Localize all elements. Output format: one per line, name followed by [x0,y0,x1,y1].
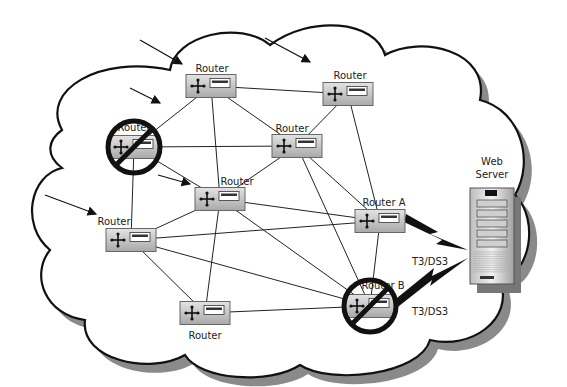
router-ra[interactable]: Router A [355,197,406,233]
server-slot [480,276,494,279]
drive-bay [477,210,507,217]
router-label: Router [195,63,229,74]
router-label: Router [220,176,254,187]
drive-bay [477,240,507,247]
drive-bay [477,200,507,207]
router-label: Router A [362,197,405,208]
cloud [32,25,529,377]
router-label: Router [97,216,131,227]
server-label-line2: Server [476,169,510,180]
incoming-arrow [140,40,182,64]
router-label: Router [333,70,367,81]
router-label: Router [275,123,309,134]
wan-link-label: T3/DS3 [411,306,448,317]
drive-bay [477,220,507,227]
server-display [485,190,497,196]
network-diagram: T3/DS3T3/DS3 RouterRouterRouterRouterRou… [0,0,567,387]
wan-link-label: T3/DS3 [411,256,448,267]
drive-bay [477,230,507,237]
server-label-line1: Web [481,156,503,167]
router-label: Router [188,330,222,341]
server-bays [473,200,511,272]
diagram-canvas: T3/DS3T3/DS3 RouterRouterRouterRouterRou… [0,0,567,387]
